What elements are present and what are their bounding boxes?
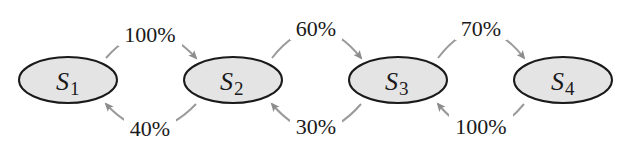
edge-label-s3-s2: 30% xyxy=(296,114,336,139)
edge-s1-s2: 100% xyxy=(106,22,196,58)
edge-label-s3-s4: 70% xyxy=(461,16,501,41)
node-s2-ellipse xyxy=(184,57,282,103)
node-s1: S1 xyxy=(19,57,117,103)
edge-s3-s4: 70% xyxy=(438,16,524,58)
edge-s2-s3: 60% xyxy=(272,16,361,58)
edge-s4-s3: 100% xyxy=(438,104,524,140)
node-s3: S3 xyxy=(349,57,447,103)
node-s2: S2 xyxy=(184,57,282,103)
edge-label-s2-s1: 40% xyxy=(130,116,170,141)
node-s4: S4 xyxy=(514,57,612,103)
edge-s2-s1: 40% xyxy=(106,104,196,142)
edge-s3-s2: 30% xyxy=(272,104,361,140)
edge-label-s1-s2: 100% xyxy=(124,22,175,47)
edge-label-s4-s3: 100% xyxy=(455,114,506,139)
state-transition-diagram: 100% 40% 60% 30% 70% 100% S1 S2 xyxy=(0,0,633,147)
node-s3-ellipse xyxy=(349,57,447,103)
edge-label-s2-s3: 60% xyxy=(296,16,336,41)
